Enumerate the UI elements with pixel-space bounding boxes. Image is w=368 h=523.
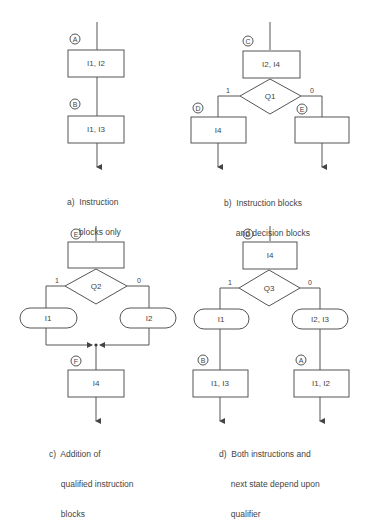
- caption-line: next state depend upon: [219, 479, 320, 489]
- instruction-text: I1, I3: [211, 379, 229, 388]
- state-label: A: [299, 357, 304, 364]
- conditional-output-text: I1: [218, 315, 225, 324]
- caption-b: b) Instruction blocks and decision block…: [224, 178, 310, 248]
- caption-line: b) Instruction blocks: [224, 198, 310, 208]
- caption-line: qualifier: [219, 509, 320, 519]
- branch-label-1: 1: [226, 87, 230, 94]
- caption-c: c) Addition of qualified instruction blo…: [49, 429, 134, 523]
- caption-line: qualified instruction: [49, 479, 134, 489]
- branch-true-line: [46, 286, 65, 308]
- branch-label-0: 0: [308, 279, 312, 286]
- decision-label: Q3: [264, 284, 275, 293]
- instruction-text: I4: [215, 126, 222, 135]
- panel-b: C I2, I4 Q1 1 0 D I4 E: [191, 22, 349, 167]
- branch-true-line: [218, 96, 240, 117]
- caption-line: blocks only: [67, 227, 121, 237]
- caption-line: and decision blocks: [224, 228, 310, 238]
- state-label: C: [245, 38, 250, 45]
- state-label: B: [201, 357, 206, 364]
- instruction-text: I1, I2: [312, 379, 330, 388]
- state-label: A: [73, 36, 78, 43]
- caption-line: d) Both instructions and: [219, 449, 320, 459]
- state-label: E: [300, 106, 305, 113]
- state-label: B: [73, 101, 78, 108]
- merge-line-right: [100, 328, 149, 345]
- merge-line-left: [46, 328, 92, 345]
- caption-line: c) Addition of: [49, 449, 134, 459]
- instruction-text: I2, I4: [262, 60, 280, 69]
- state-label: D: [195, 105, 200, 112]
- panel-a: A I1, I2 B I1, I3: [68, 22, 124, 167]
- branch-label-0: 0: [137, 277, 141, 284]
- caption-d: d) Both instructions and next state depe…: [219, 429, 320, 523]
- panel-c: E Q2 1 0 I1 I2 F I4: [20, 226, 176, 421]
- instruction-text: I4: [267, 251, 274, 260]
- instruction-text: I1, I2: [87, 59, 105, 68]
- instruction-text: I4: [93, 379, 100, 388]
- caption-a: a) Instruction blocks only: [67, 177, 121, 247]
- conditional-output-text: I2: [146, 314, 153, 323]
- panel-d: D I4 Q3 1 0 I1 I2, I3 B A I1, I3 I1, I2: [193, 226, 349, 421]
- branch-label-0: 0: [310, 87, 314, 94]
- branch-false-line: [300, 288, 320, 309]
- conditional-output-text: I1: [45, 314, 52, 323]
- caption-line: blocks: [49, 509, 134, 519]
- decision-label: Q2: [91, 282, 102, 291]
- branch-label-1: 1: [228, 279, 232, 286]
- branch-label-1: 1: [55, 277, 59, 284]
- state-label: F: [74, 358, 78, 365]
- state-box-e: [295, 117, 349, 143]
- decision-label: Q1: [265, 92, 276, 101]
- instruction-text: I1, I3: [87, 125, 105, 134]
- conditional-output-text: I2, I3: [311, 315, 329, 324]
- branch-true-line: [220, 288, 239, 309]
- caption-line: a) Instruction: [67, 197, 121, 207]
- branch-false-line: [127, 286, 149, 308]
